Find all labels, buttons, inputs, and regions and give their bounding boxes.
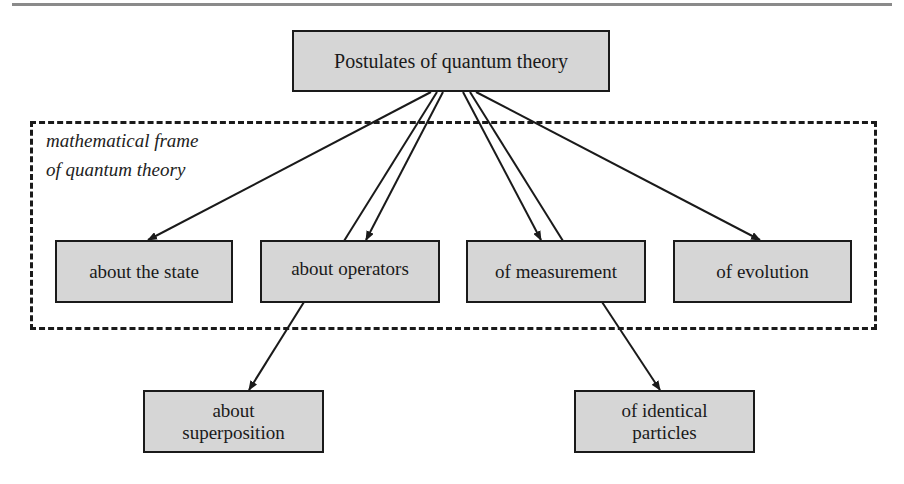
node-label: about the state	[89, 261, 199, 283]
node-about-the-state: about the state	[55, 240, 233, 303]
node-of-identical-particles: of identical particles	[574, 390, 755, 453]
node-about-operators: about operators	[260, 240, 440, 303]
node-postulates-label: Postulates of quantum theory	[334, 50, 568, 72]
node-of-measurement: of measurement	[466, 240, 646, 303]
edge-operators-superposition	[249, 302, 304, 390]
node-label: about operators	[291, 258, 409, 280]
node-label: of evolution	[716, 261, 808, 283]
node-about-superposition: about superposition	[143, 390, 324, 453]
edge-operators-root	[344, 92, 437, 241]
node-postulates: Postulates of quantum theory	[292, 30, 610, 92]
edge-root-measurement	[463, 92, 541, 240]
edge-root-state	[148, 92, 431, 240]
node-label: of identical particles	[622, 400, 708, 444]
edge-measurement-identical	[602, 302, 660, 390]
edge-root-operators	[366, 92, 443, 240]
edge-root-evolution	[476, 92, 760, 240]
node-label: about superposition	[182, 400, 284, 444]
node-label: of measurement	[495, 261, 617, 283]
node-of-evolution: of evolution	[673, 240, 852, 303]
edge-measurement-root	[470, 92, 563, 241]
